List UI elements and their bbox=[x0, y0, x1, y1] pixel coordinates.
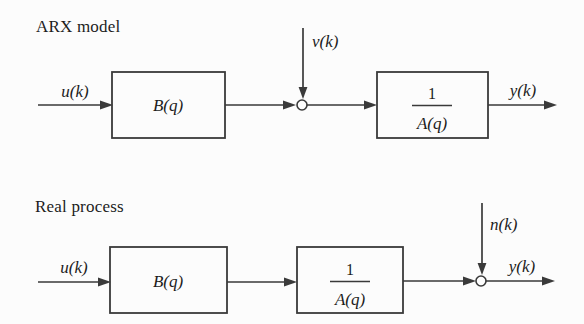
arx-input-signal-label: u(k) bbox=[61, 82, 89, 101]
real-a-block-numerator: 1 bbox=[346, 261, 354, 278]
arx-a-block-denominator: A(q) bbox=[416, 114, 448, 133]
arx-b-block-label: B(q) bbox=[153, 96, 184, 115]
arx-output-signal-label: y(k) bbox=[508, 81, 537, 100]
real-output-signal-label: y(k) bbox=[507, 257, 536, 276]
arx-disturbance-signal-label: v(k) bbox=[312, 32, 339, 51]
arx-sum-junction bbox=[297, 100, 307, 110]
real-noise-signal-label: n(k) bbox=[490, 215, 518, 234]
block-diagram-figure: ARX model u(k) B(q) v(k) 1 A(q bbox=[0, 0, 584, 324]
real-a-block-denominator: A(q) bbox=[334, 290, 366, 309]
arx-input-arrowhead-icon bbox=[100, 101, 113, 110]
real-sum-junction bbox=[476, 276, 486, 286]
arx-model-title: ARX model bbox=[36, 17, 121, 36]
real-process-diagram: Real process u(k) B(q) 1 A(q) n(k) bbox=[35, 197, 555, 313]
real-a-input-arrowhead-icon bbox=[284, 278, 297, 287]
arx-model-diagram: ARX model u(k) B(q) v(k) 1 A(q bbox=[36, 17, 557, 138]
real-noise-arrowhead-icon bbox=[478, 263, 487, 275]
arx-a-input-arrowhead-icon bbox=[364, 101, 377, 110]
arx-output-arrowhead-icon bbox=[544, 101, 557, 110]
real-input-arrowhead-icon bbox=[98, 278, 111, 287]
real-sum-input-arrowhead-icon bbox=[463, 277, 476, 286]
real-process-title: Real process bbox=[35, 197, 124, 216]
arx-disturbance-arrowhead-icon bbox=[299, 87, 308, 99]
arx-a-block-numerator: 1 bbox=[428, 85, 436, 102]
real-output-arrowhead-icon bbox=[542, 277, 555, 286]
arx-sum-input-arrowhead-icon bbox=[283, 101, 296, 110]
real-b-block-label: B(q) bbox=[153, 272, 184, 291]
figure-root: ARX model u(k) B(q) v(k) 1 A(q bbox=[0, 0, 584, 324]
real-input-signal-label: u(k) bbox=[60, 258, 88, 277]
